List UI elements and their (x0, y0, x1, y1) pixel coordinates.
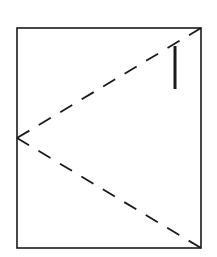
dashed-line-upper (17, 28, 201, 138)
dashed-line-lower (17, 138, 201, 248)
diagram-canvas (0, 0, 217, 257)
frame-rectangle (17, 28, 201, 248)
